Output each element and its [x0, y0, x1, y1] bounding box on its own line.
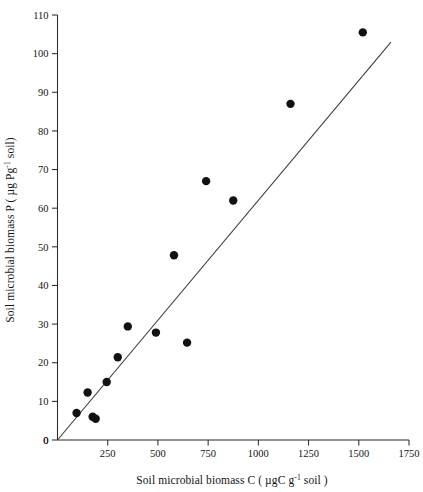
x-tick-label: 500: [150, 448, 166, 459]
data-point: [286, 100, 294, 108]
y-tick-label: 50: [38, 242, 49, 253]
y-tick-label: 90: [38, 87, 49, 98]
y-tick-label: 10: [38, 396, 49, 407]
data-point: [170, 251, 178, 259]
x-tick-label: 0: [43, 435, 48, 446]
data-point: [152, 328, 160, 336]
data-point: [103, 378, 111, 386]
plot-background: [0, 0, 423, 492]
x-tick-label: 1750: [399, 448, 420, 459]
y-tick-label: 80: [38, 126, 49, 137]
y-tick-label: 30: [38, 319, 49, 330]
scatter-plot-figure: 0102030405060708090100110025050075010001…: [0, 0, 423, 492]
x-tick-label: 750: [200, 448, 216, 459]
x-tick-label: 1000: [248, 448, 269, 459]
y-tick-label: 100: [33, 48, 49, 59]
data-point: [124, 322, 132, 330]
y-tick-label: 110: [33, 10, 48, 21]
data-point: [72, 409, 80, 417]
y-tick-label: 40: [38, 280, 49, 291]
y-tick-label: 60: [38, 203, 49, 214]
data-point: [229, 196, 237, 204]
data-point: [183, 338, 191, 346]
x-tick-label: 1500: [348, 448, 369, 459]
x-tick-label: 1250: [298, 448, 319, 459]
x-tick-label: 250: [100, 448, 116, 459]
data-point: [359, 28, 367, 36]
data-point: [202, 177, 210, 185]
y-tick-label: 20: [38, 357, 49, 368]
data-point: [114, 353, 122, 361]
data-point: [91, 415, 99, 423]
y-tick-label: 70: [38, 164, 49, 175]
data-point: [83, 388, 91, 396]
